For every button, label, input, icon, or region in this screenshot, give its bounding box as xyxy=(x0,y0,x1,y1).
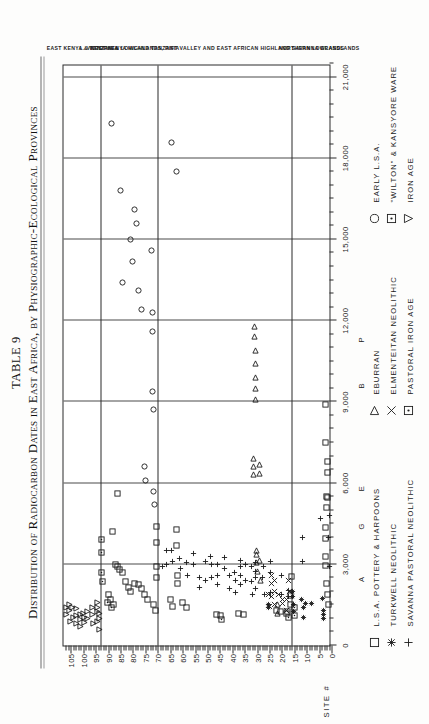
date-tick-13000 xyxy=(329,292,333,293)
site-tick-21 xyxy=(279,645,280,650)
site-tick-75 xyxy=(145,645,146,653)
data-point-circle xyxy=(167,138,174,145)
data-point-triangle-up xyxy=(251,360,258,367)
site-tick-label-70: 70 xyxy=(153,653,162,679)
site-tick-51 xyxy=(204,645,205,650)
site-tick-label-80: 80 xyxy=(128,653,137,679)
data-point-triangle-up xyxy=(252,374,259,381)
data-point-square xyxy=(119,568,126,575)
data-point-dot-square xyxy=(217,616,224,623)
date-tick-17000 xyxy=(329,184,333,185)
site-tick-19 xyxy=(284,645,285,650)
data-point-triangle-up xyxy=(256,556,263,563)
rotated-figure-container: TABLE 9 Distribution of Radiocarbon Date… xyxy=(0,0,429,724)
legend-symbol-square-icon xyxy=(369,633,382,646)
data-point-plus xyxy=(202,577,209,584)
figure-title: Distribution of Radiocarbon Dates in Eas… xyxy=(24,0,40,724)
data-point-circle xyxy=(173,168,180,175)
site-tick-104 xyxy=(73,645,74,650)
site-tick-5 xyxy=(319,645,320,653)
site-tick-13 xyxy=(299,645,300,650)
data-point-circle xyxy=(148,246,155,253)
date-tick-4500 xyxy=(329,522,333,523)
site-tick-44 xyxy=(222,645,223,650)
data-point-square xyxy=(144,595,151,602)
site-tick-64 xyxy=(172,645,173,650)
data-point-plus xyxy=(236,556,243,563)
site-tick-20 xyxy=(281,645,282,653)
data-point-square xyxy=(173,541,180,548)
data-point-triangle-right xyxy=(69,604,76,611)
date-tick-label-0: 0 xyxy=(340,643,349,648)
data-point-square xyxy=(212,610,219,617)
data-point-triangle-up xyxy=(253,547,260,554)
legend-symbol-dot-square-icon xyxy=(386,209,399,222)
data-point-circle xyxy=(117,187,124,194)
site-tick-91 xyxy=(105,645,106,650)
data-point-plus xyxy=(237,571,244,578)
figure-title-block: TABLE 9 Distribution of Radiocarbon Date… xyxy=(8,0,40,724)
site-tick-42 xyxy=(227,645,228,650)
site-tick-48 xyxy=(212,645,213,650)
data-point-square xyxy=(178,598,185,605)
data-point-asterisk xyxy=(298,595,305,602)
data-point-circle xyxy=(133,219,140,226)
date-tick-2500 xyxy=(329,576,333,577)
data-point-x-cross xyxy=(275,590,282,597)
data-point-plus xyxy=(225,585,232,592)
site-tick-label-30: 30 xyxy=(253,653,262,679)
data-point-x-cross xyxy=(282,595,289,602)
site-tick-2 xyxy=(326,645,327,650)
period-mark-A: A xyxy=(356,576,365,582)
data-point-triangle-right xyxy=(93,608,100,615)
data-point-x-cross xyxy=(265,602,272,609)
date-tick-5500 xyxy=(329,495,333,496)
data-point-triangle-right xyxy=(72,605,79,612)
data-point-triangle-right xyxy=(66,617,73,624)
date-tick-12500 xyxy=(329,306,333,307)
site-tick-56 xyxy=(192,645,193,650)
date-tick-11500 xyxy=(329,333,333,334)
data-point-triangle-right xyxy=(77,623,84,630)
site-tick-68 xyxy=(162,645,163,650)
data-point-triangle-right xyxy=(93,617,100,624)
data-point-dot-square xyxy=(104,598,111,605)
site-tick-28 xyxy=(262,645,263,650)
data-point-circle xyxy=(129,257,136,264)
site-tick-11 xyxy=(304,645,305,650)
data-point-x-cross xyxy=(268,593,275,600)
site-tick-59 xyxy=(185,645,186,650)
data-point-square xyxy=(216,612,223,619)
date-tick-1500 xyxy=(329,603,333,604)
period-mark-P: P xyxy=(356,336,365,342)
date-tick-label-12000: 12,000 xyxy=(340,307,349,333)
date-tick-2000 xyxy=(329,590,333,591)
scatter-plot-frame: 0510152025303540455055606570758085909510… xyxy=(62,64,330,646)
site-tick-17 xyxy=(289,645,290,650)
date-tick-3000 xyxy=(329,563,336,564)
data-point-square xyxy=(322,438,329,445)
data-point-plus xyxy=(207,574,214,581)
data-point-plus xyxy=(278,590,285,597)
date-tick-20500 xyxy=(329,89,333,90)
date-tick-14000 xyxy=(329,265,333,266)
data-point-plus xyxy=(248,590,255,597)
date-tick-3500 xyxy=(329,549,333,550)
data-point-square xyxy=(104,590,111,597)
data-point-plus xyxy=(214,581,221,588)
data-point-triangle-up xyxy=(250,471,257,478)
site-tick-99 xyxy=(85,645,86,650)
gridline-date-12000 xyxy=(63,319,329,320)
data-point-triangle-right xyxy=(89,610,96,617)
data-point-circle xyxy=(148,309,155,316)
data-point-x-cross xyxy=(271,601,278,608)
period-mark-E: E xyxy=(356,485,365,491)
site-tick-label-105: 105 xyxy=(66,653,75,679)
date-tick-18000 xyxy=(329,157,336,158)
data-point-plus xyxy=(266,568,273,575)
site-tick-25 xyxy=(269,645,270,653)
site-tick-36 xyxy=(242,645,243,650)
site-tick-31 xyxy=(254,645,255,650)
data-point-plus xyxy=(252,585,259,592)
site-tick-66 xyxy=(167,645,168,650)
